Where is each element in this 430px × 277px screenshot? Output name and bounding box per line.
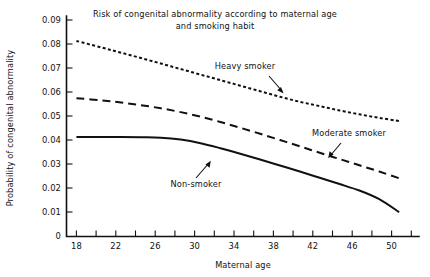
x-tick-label: 42 <box>307 241 318 251</box>
series-label-non-smoker: Non-smoker <box>171 179 222 189</box>
y-tick-label: 0.04 <box>42 135 61 145</box>
annotation-non-smoker: Non-smoker <box>171 161 222 189</box>
y-tick-label: 0.09 <box>42 15 61 25</box>
x-axis-ticks <box>76 231 411 237</box>
x-axis-tick-labels: 18 22 26 30 34 38 42 46 50 <box>71 241 397 251</box>
x-tick-label: 30 <box>189 241 200 251</box>
arrow-head-icon <box>277 87 283 93</box>
series-line-heavy-smoker <box>76 41 399 121</box>
y-axis-ticks <box>67 20 73 212</box>
x-axis-title: Maternal age <box>215 260 271 270</box>
y-tick-label: 0.07 <box>42 63 61 73</box>
y-axis-tick-labels: 0.09 0.08 0.07 0.06 0.05 0.04 0.03 0.02 … <box>42 15 61 241</box>
chart-svg: Risk of congenital abnormality according… <box>0 0 430 277</box>
series-line-moderate-smoker <box>76 98 399 178</box>
y-tick-label: 0.01 <box>42 207 61 217</box>
y-tick-label: 0.03 <box>42 159 61 169</box>
x-tick-label: 22 <box>110 241 121 251</box>
series-label-moderate-smoker: Moderate smoker <box>312 128 386 138</box>
y-tick-label: 0 <box>56 231 61 241</box>
y-tick-label: 0.06 <box>42 87 61 97</box>
x-tick-label: 46 <box>347 241 358 251</box>
chart-title-line-2: and smoking habit <box>176 21 255 31</box>
axis-lines <box>67 16 420 237</box>
series-line-non-smoker <box>76 137 399 212</box>
x-tick-label: 26 <box>150 241 161 251</box>
x-tick-label: 34 <box>229 241 240 251</box>
y-axis-title: Probability of congenital abnormality <box>5 50 15 207</box>
x-tick-label: 38 <box>268 241 279 251</box>
y-tick-label: 0.05 <box>42 111 61 121</box>
series-label-heavy-smoker: Heavy smoker <box>215 61 276 71</box>
y-tick-label: 0.02 <box>42 183 61 193</box>
y-tick-label: 0.08 <box>42 39 61 49</box>
x-tick-label: 18 <box>71 241 82 251</box>
chart-title-line-1: Risk of congenital abnormality according… <box>93 9 337 19</box>
chart-container: Risk of congenital abnormality according… <box>0 0 430 277</box>
x-tick-label: 50 <box>386 241 397 251</box>
